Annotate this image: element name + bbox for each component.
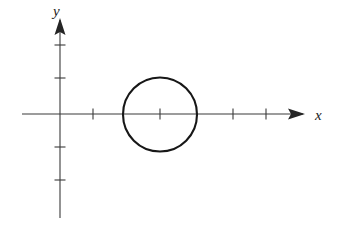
- figure-canvas: x y: [0, 0, 341, 238]
- cartesian-plot: x y: [0, 0, 341, 238]
- y-axis-label: y: [51, 3, 60, 19]
- x-axis-label: x: [314, 107, 322, 123]
